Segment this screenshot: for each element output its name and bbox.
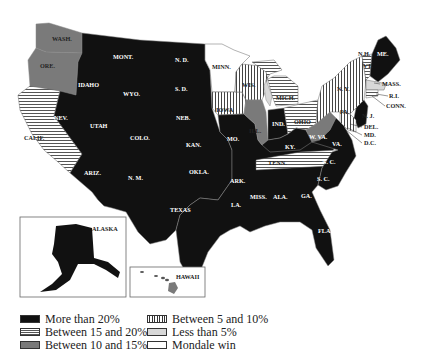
- label-va: VA.: [332, 140, 342, 147]
- label-mont: MONT.: [113, 53, 134, 60]
- swatch-light-gray-icon: [147, 328, 167, 336]
- label-alaska: ALASKA: [92, 225, 118, 232]
- label-nj: N. J.: [362, 112, 375, 119]
- label-fla: FLA.: [318, 227, 332, 234]
- label-ore: ORE.: [40, 62, 55, 69]
- label-colo: COLO.: [130, 134, 150, 141]
- label-ala: ALA.: [273, 193, 288, 200]
- legend-label: Between 10 and 15%: [45, 338, 147, 353]
- label-nm: N. M.: [128, 174, 143, 181]
- label-iowa: IOWA: [216, 106, 234, 113]
- label-tenn: TENN.: [268, 159, 287, 166]
- label-texas: TEXAS: [170, 206, 191, 213]
- label-nev: NEV.: [54, 114, 68, 121]
- label-nh: N.H.: [358, 50, 371, 57]
- label-la: LA.: [231, 201, 242, 208]
- label-sc: S. C.: [317, 175, 330, 182]
- legend-item-mondale: Mondale win: [147, 338, 236, 352]
- inset-hawaii: HAWAII: [130, 267, 205, 297]
- inset-alaska: ALASKA: [20, 217, 126, 297]
- label-wash: WASH.: [52, 35, 72, 42]
- label-pa: PA.: [340, 108, 350, 115]
- label-utah: UTAH: [90, 122, 108, 129]
- state-me-nh: [370, 36, 400, 82]
- legend-label: Mondale win: [172, 338, 236, 353]
- label-minn: MINN.: [212, 63, 231, 70]
- label-neb: NEB.: [176, 114, 191, 121]
- label-nd: N. D.: [175, 56, 189, 63]
- label-del: DEL.: [364, 123, 379, 130]
- label-idaho: IDAHO: [78, 81, 99, 88]
- label-ny: N. Y.: [337, 85, 350, 92]
- map-legend: More than 20% Between 15 and 20% Between…: [20, 312, 340, 362]
- swatch-vertical-stripes-icon: [147, 315, 167, 323]
- label-ohio: OHIO: [294, 118, 311, 125]
- label-nc: N. C.: [322, 158, 336, 165]
- label-wva: W. VA.: [309, 133, 328, 140]
- label-wyo: WYO.: [123, 90, 140, 97]
- label-mich: MICH.: [276, 94, 296, 101]
- label-ariz: ARIZ.: [84, 169, 101, 176]
- label-dc: D.C.: [364, 139, 376, 146]
- label-calif: CALIF.: [24, 134, 45, 141]
- label-ark: ARK.: [230, 177, 246, 184]
- label-miss: MISS.: [250, 193, 267, 200]
- us-election-map: WASH. ORE. CALIF. IDAHO MONT. WYO. NEV. …: [0, 0, 422, 364]
- swatch-white-icon: [147, 341, 167, 349]
- swatch-solid-gray-icon: [20, 341, 40, 349]
- label-vt: VT.: [363, 62, 373, 69]
- label-sd: S. D.: [175, 85, 188, 92]
- label-ri: R.I.: [389, 92, 399, 99]
- label-me: ME.: [377, 50, 389, 57]
- legend-item-b10-15: Between 10 and 15%: [20, 338, 147, 352]
- swatch-solid-black-icon: [20, 315, 40, 323]
- label-ga: GA.: [301, 192, 312, 199]
- swatch-horizontal-stripes-icon: [20, 328, 40, 336]
- label-kan: KAN.: [186, 141, 202, 148]
- label-ill: ILL.: [249, 127, 262, 134]
- label-hawaii: HAWAII: [176, 273, 200, 280]
- label-ind: IND.: [272, 120, 285, 127]
- label-mo: MO.: [227, 135, 240, 142]
- label-okla: OKLA.: [189, 168, 209, 175]
- label-md: MD.: [364, 131, 376, 138]
- label-ky: KY.: [285, 143, 296, 150]
- label-wis: WIS.: [242, 81, 256, 88]
- label-mass: MASS.: [382, 80, 401, 87]
- label-conn: CONN.: [386, 102, 406, 109]
